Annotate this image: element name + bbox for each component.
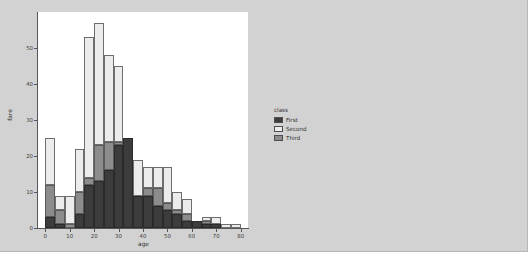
y-tick-label: 40 bbox=[22, 81, 33, 87]
y-tick-label: 50 bbox=[22, 45, 33, 51]
histogram-bar bbox=[163, 167, 173, 228]
histogram-segment-third bbox=[104, 142, 114, 171]
x-tick-label: 0 bbox=[44, 233, 48, 239]
legend-item-first[interactable]: First bbox=[274, 115, 320, 124]
histogram-segment-first bbox=[75, 214, 85, 228]
histogram-segment-second bbox=[84, 37, 94, 177]
histogram-segment-second bbox=[75, 149, 85, 192]
histogram-bar bbox=[133, 160, 143, 228]
x-tick-label: 60 bbox=[188, 233, 195, 239]
x-tick-mark bbox=[167, 229, 168, 232]
legend: class FirstSecondThird bbox=[274, 107, 320, 142]
figure-window: 01020304050607080 01020304050 age fare c… bbox=[0, 0, 528, 259]
histogram-segment-third bbox=[143, 188, 153, 195]
histogram-segment-third bbox=[114, 142, 124, 146]
histogram-bar bbox=[84, 37, 94, 228]
histogram-segment-first bbox=[133, 196, 143, 228]
histogram-segment-third bbox=[182, 214, 192, 221]
histogram-segment-second bbox=[45, 138, 55, 185]
y-tick-mark bbox=[34, 120, 37, 121]
x-tick-label: 80 bbox=[237, 233, 244, 239]
histogram-segment-third bbox=[153, 188, 163, 206]
x-tick-label: 30 bbox=[115, 233, 122, 239]
legend-title: class bbox=[274, 107, 320, 113]
histogram-segment-second bbox=[202, 217, 212, 221]
histogram-segment-first bbox=[114, 145, 124, 228]
y-tick-mark bbox=[34, 48, 37, 49]
y-tick-label: 0 bbox=[22, 225, 33, 231]
histogram-segment-third bbox=[84, 178, 94, 185]
x-tick-label: 10 bbox=[66, 233, 73, 239]
x-tick-label: 70 bbox=[213, 233, 220, 239]
legend-item-label: Second bbox=[286, 126, 307, 132]
histogram-bar bbox=[45, 138, 55, 228]
legend-item-third[interactable]: Third bbox=[274, 133, 320, 142]
figure-panel: 01020304050607080 01020304050 age fare c… bbox=[0, 0, 528, 252]
histogram-bar bbox=[55, 196, 65, 228]
histogram-segment-second bbox=[104, 55, 114, 141]
legend-entries: FirstSecondThird bbox=[274, 115, 320, 142]
legend-swatch-third-icon bbox=[274, 135, 283, 141]
histogram-segment-second bbox=[172, 192, 182, 210]
histogram-segment-second bbox=[143, 167, 153, 189]
histogram-segment-first bbox=[172, 214, 182, 228]
histogram-segment-third bbox=[45, 185, 55, 217]
x-tick-mark bbox=[70, 229, 71, 232]
x-tick-mark bbox=[45, 229, 46, 232]
y-axis-line bbox=[37, 12, 38, 229]
x-axis-label: age bbox=[38, 241, 249, 247]
histogram-segment-first bbox=[192, 221, 202, 228]
y-axis-label: fare bbox=[7, 103, 13, 127]
histogram-bar bbox=[104, 55, 114, 228]
x-tick-label: 40 bbox=[139, 233, 146, 239]
y-tick-mark bbox=[34, 228, 37, 229]
y-tick-label: 30 bbox=[22, 117, 33, 123]
histogram-segment-first bbox=[84, 185, 94, 228]
y-tick-mark bbox=[34, 84, 37, 85]
plot-area bbox=[38, 12, 248, 228]
histogram-bar bbox=[172, 192, 182, 228]
histogram-segment-second bbox=[211, 217, 221, 224]
y-tick-mark bbox=[34, 156, 37, 157]
x-tick-label: 20 bbox=[91, 233, 98, 239]
histogram-bar bbox=[114, 66, 124, 228]
x-tick-mark bbox=[143, 229, 144, 232]
histogram-segment-second bbox=[55, 196, 65, 210]
histogram-bar bbox=[153, 167, 163, 228]
histogram-segment-first bbox=[45, 217, 55, 228]
histogram-segment-first bbox=[104, 170, 114, 228]
histogram-segment-second bbox=[94, 23, 104, 145]
x-tick-mark bbox=[94, 229, 95, 232]
x-tick-mark bbox=[192, 229, 193, 232]
histogram-bar bbox=[75, 149, 85, 228]
y-tick-label: 10 bbox=[22, 189, 33, 195]
histogram-segment-third bbox=[94, 145, 104, 181]
histogram-bar bbox=[182, 199, 192, 228]
histogram-segment-second bbox=[153, 167, 163, 189]
x-tick-label: 50 bbox=[164, 233, 171, 239]
histogram-bar bbox=[94, 23, 104, 228]
histogram-segment-first bbox=[163, 210, 173, 228]
histogram-bar bbox=[211, 217, 221, 228]
histogram-segment-first bbox=[182, 221, 192, 228]
histogram-segment-second bbox=[133, 160, 143, 196]
histogram-segment-second bbox=[163, 167, 173, 203]
histogram-segment-first bbox=[94, 181, 104, 228]
histogram-segment-second bbox=[65, 196, 75, 225]
histogram-segment-first bbox=[123, 138, 133, 228]
histogram-bar bbox=[143, 167, 153, 228]
histogram-segment-first bbox=[153, 206, 163, 228]
histogram-segment-second bbox=[114, 66, 124, 142]
legend-item-label: First bbox=[286, 117, 298, 123]
histogram-segment-first bbox=[143, 196, 153, 228]
y-tick-mark bbox=[34, 192, 37, 193]
histogram-bars bbox=[38, 12, 248, 228]
histogram-bar bbox=[202, 217, 212, 228]
histogram-bar bbox=[123, 138, 133, 228]
legend-swatch-second-icon bbox=[274, 126, 283, 132]
histogram-bar bbox=[192, 221, 202, 228]
x-tick-mark bbox=[119, 229, 120, 232]
legend-item-second[interactable]: Second bbox=[274, 124, 320, 133]
legend-swatch-first-icon bbox=[274, 117, 283, 123]
histogram-bar bbox=[65, 196, 75, 228]
